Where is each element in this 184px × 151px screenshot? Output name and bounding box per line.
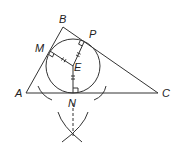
side-AB [26,27,63,93]
label-C: C [162,88,170,99]
right-angle-M [49,54,54,58]
segment-EM [50,51,73,66]
label-M: M [35,43,44,54]
label-N: N [68,98,76,109]
geometry-figure [0,0,184,151]
label-E: E [74,62,81,73]
label-A: A [15,88,22,99]
label-B: B [59,14,66,25]
right-angle-P [79,40,83,45]
side-BC [63,27,158,93]
label-P: P [89,29,96,40]
diagram: A B C M P E N [0,0,184,151]
